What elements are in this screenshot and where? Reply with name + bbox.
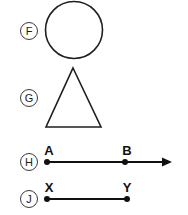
point-dot-a (44, 159, 50, 165)
figure-row-g: G (21, 68, 102, 127)
point-label-a: A (44, 143, 54, 158)
badge-label-h: H (25, 156, 33, 168)
triangle-shape (46, 68, 101, 127)
point-label-b: B (122, 143, 131, 158)
point-dot-y (124, 196, 130, 202)
arrow-head-icon (162, 158, 172, 167)
geometry-figure-sheet: F G H A B J X Y (0, 0, 188, 215)
point-label-x: X (45, 180, 54, 195)
point-dot-x (44, 196, 50, 202)
circle-shape (46, 2, 103, 59)
point-label-y: Y (123, 180, 132, 195)
figures-canvas: F G H A B J X Y (0, 0, 188, 215)
point-dot-b (122, 159, 128, 165)
figure-row-f: F (21, 2, 103, 59)
figure-row-j: J X Y (21, 180, 132, 208)
badge-label-f: F (26, 25, 33, 37)
badge-label-g: G (25, 92, 34, 104)
badge-label-j: J (26, 193, 32, 205)
figure-row-h: H A B (21, 143, 173, 171)
